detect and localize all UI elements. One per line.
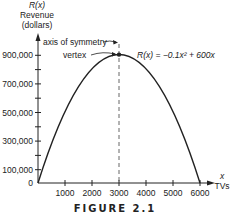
- vertex-annotation: vertex: [63, 50, 87, 60]
- vertex-point: [117, 52, 121, 56]
- x-tick-label: 5000: [164, 188, 183, 198]
- function-label: R(x) = −0.1x² + 600x: [137, 50, 215, 60]
- y-axis-variable: R(x): [29, 0, 45, 10]
- y-tick-label: 0: [28, 178, 33, 188]
- y-axis-arrow-icon: [36, 33, 41, 41]
- y-tick-label: 500,000: [2, 108, 33, 118]
- figure-caption: FIGURE 2.1: [74, 203, 157, 214]
- x-tick-label: 3000: [110, 188, 129, 198]
- x-tick-label: 6000: [191, 188, 210, 198]
- x-tick-label: 4000: [137, 188, 156, 198]
- axis-of-symmetry-annotation: axis of symmetry: [43, 37, 108, 47]
- y-tick-label: 900,000: [2, 50, 33, 60]
- y-tick-label: 700,000: [2, 79, 33, 89]
- y-axis-label-units: (dollars): [22, 20, 53, 30]
- x-tick-label: 1000: [56, 188, 75, 198]
- y-tick-label: 100,000: [2, 165, 33, 175]
- y-tick-label: 300,000: [2, 136, 33, 146]
- x-axis-variable: x: [219, 171, 225, 181]
- vertex-arrow-icon: [91, 53, 115, 55]
- y-axis-label: Revenue: [20, 10, 54, 20]
- x-tick-label: 2000: [83, 188, 102, 198]
- x-axis-label: TVs: [214, 181, 229, 191]
- revenue-chart: 900,000 700,000 500,000 300,000 100,000 …: [0, 0, 230, 215]
